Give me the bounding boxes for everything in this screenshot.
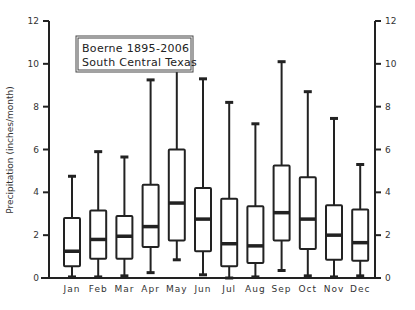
box-feb [90,152,106,277]
y-tick-label: 12 [28,16,39,26]
chart-subtitle: South Central Texas [82,56,197,69]
title-box: Boerne 1895-2006 South Central Texas [76,36,197,72]
x-tick-label: Jan [63,284,81,294]
x-tick-label: Aug [245,284,266,294]
box-jan [64,176,80,277]
x-tick-label: Jun [193,284,211,294]
box-dec [352,164,368,275]
box-jul [221,102,237,278]
y-tick-label-right: 12 [385,16,396,26]
y-tick-label: 10 [28,59,40,69]
y-tick-label-right: 10 [385,59,397,69]
box-apr [143,80,159,273]
y-tick-label-right: 0 [385,273,391,283]
box-series [64,47,368,278]
y-tick-label: 2 [33,230,39,240]
y-tick-label: 6 [33,145,39,155]
chart-title: Boerne 1895-2006 [82,42,189,55]
x-tick-label: Oct [299,284,318,294]
x-tick-label: Dec [350,284,370,294]
box-nov [326,118,342,276]
x-tick-label: Nov [324,284,345,294]
box-may [169,47,185,260]
x-axis: JanFebMarAprMayJunJulAugSepOctNovDec [41,278,375,294]
box-mar [116,157,132,276]
y-tick-label-right: 2 [385,230,391,240]
y-tick-label-right: 4 [385,187,391,197]
x-tick-label: Apr [141,284,160,294]
x-tick-label: Mar [114,284,134,294]
x-tick-label: Jul [221,284,236,294]
y-axis-label: Precipitation (inches/month) [5,86,15,213]
box-oct [300,92,316,276]
box-sep [274,62,290,271]
y-tick-label-right: 6 [385,145,391,155]
y-tick-label: 8 [33,102,39,112]
box-aug [247,124,263,277]
box-plot-chart: 024681012 024681012 JanFebMarAprMayJunJu… [0,0,415,310]
y-tick-label: 0 [33,273,39,283]
x-tick-label: May [166,284,188,294]
box-jun [195,79,211,275]
y-tick-label-right: 8 [385,102,391,112]
x-tick-label: Feb [89,284,108,294]
left-y-axis: 024681012 [28,16,49,283]
y-tick-label: 4 [33,187,39,197]
x-tick-label: Sep [272,284,292,294]
right-y-axis: 024681012 [375,16,397,283]
